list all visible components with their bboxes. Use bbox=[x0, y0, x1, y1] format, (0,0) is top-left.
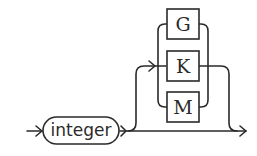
branch-in bbox=[128, 66, 166, 131]
terminal-label: G bbox=[175, 13, 190, 35]
railroad-diagram: integer G K M bbox=[0, 0, 257, 156]
terminal-label: M bbox=[173, 96, 192, 118]
terminal-label: K bbox=[176, 55, 191, 77]
terminal-m: M bbox=[167, 92, 199, 122]
entry-arrow-icon bbox=[27, 126, 42, 136]
terminal-k: K bbox=[167, 51, 199, 81]
branch-out bbox=[199, 66, 237, 131]
terminal-g: G bbox=[167, 9, 199, 39]
nonterminal-label: integer bbox=[51, 120, 112, 140]
nonterminal-integer: integer bbox=[43, 117, 119, 144]
